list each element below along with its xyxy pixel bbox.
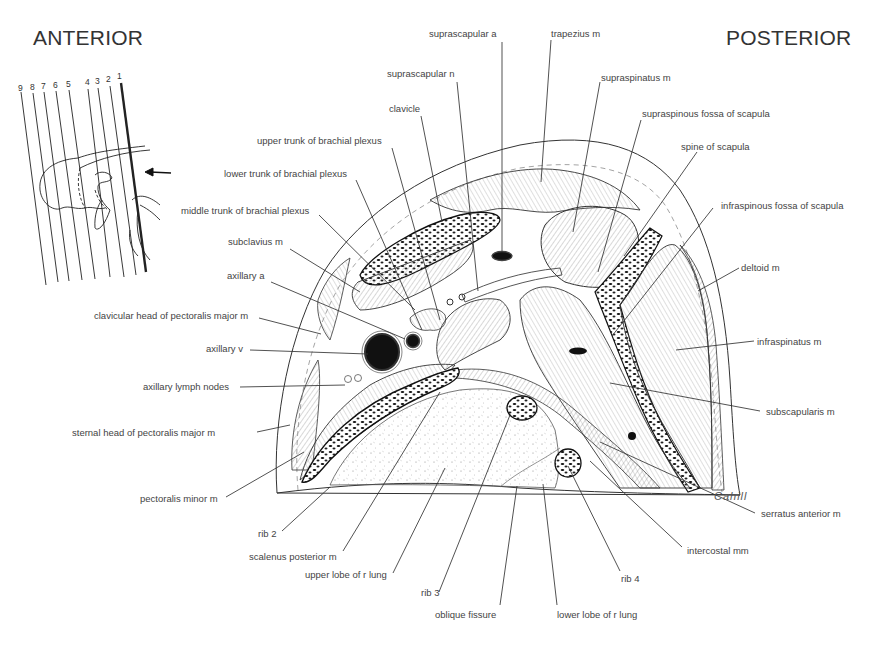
label-supraspinatus-m: supraspinatus m: [601, 72, 671, 83]
label-deltoid-m: deltoid m: [741, 262, 780, 273]
label-supraspinous-fossa: supraspinous fossa of scapula: [642, 108, 770, 119]
label-infraspinatus-m: infraspinatus m: [757, 336, 821, 347]
section-number-3: 3: [95, 76, 100, 86]
label-axillary-lymph-nodes: axillary lymph nodes: [143, 381, 229, 392]
orientation-diagram: [21, 83, 160, 285]
label-axillary-a: axillary a: [227, 270, 265, 281]
label-oblique-fissure: oblique fissure: [435, 609, 496, 620]
section-number-1: 1: [117, 71, 122, 81]
section-number-5: 5: [66, 79, 71, 89]
label-scalenus-posterior-m: scalenus posterior m: [249, 551, 337, 562]
label-upper-lobe-r-lung: upper lobe of r lung: [305, 569, 387, 580]
label-middle-trunk: middle trunk of brachial plexus: [181, 205, 309, 216]
label-spine-of-scapula: spine of scapula: [681, 141, 750, 152]
section-number-4: 4: [85, 77, 90, 87]
label-sternal-head-pectoralis-major: sternal head of pectoralis major m: [72, 427, 215, 438]
section-number-2: 2: [106, 74, 111, 84]
label-rib-3: rib 3: [421, 587, 439, 598]
arrow-icon: [145, 168, 171, 176]
label-intercostal-mm: intercostal mm: [687, 545, 749, 556]
label-subscapularis-m: subscapularis m: [766, 406, 835, 417]
label-infraspinous-fossa: infraspinous fossa of scapula: [721, 200, 844, 211]
label-subclavius-m: subclavius m: [228, 236, 283, 247]
section-number-8: 8: [30, 82, 35, 92]
label-upper-trunk: upper trunk of brachial plexus: [257, 135, 382, 146]
label-suprascapular-a: suprascapular a: [429, 28, 497, 39]
label-pectoralis-minor-m: pectoralis minor m: [140, 493, 218, 504]
label-suprascapular-n: suprascapular n: [387, 68, 455, 79]
label-axillary-v: axillary v: [206, 343, 243, 354]
label-rib-2: rib 2: [258, 528, 276, 539]
artist-signature: Cahill: [714, 490, 748, 502]
label-lower-lobe-r-lung: lower lobe of r lung: [557, 609, 637, 620]
label-serratus-anterior-m: serratus anterior m: [761, 508, 841, 519]
section-number-7: 7: [41, 81, 46, 91]
label-trapezius-m: trapezius m: [551, 28, 600, 39]
section-number-6: 6: [53, 80, 58, 90]
label-rib-4: rib 4: [621, 573, 639, 584]
label-clavicular-head-pectoralis-major: clavicular head of pectoralis major m: [94, 310, 248, 321]
label-lower-trunk: lower trunk of brachial plexus: [224, 168, 347, 179]
label-clavicle: clavicle: [389, 103, 420, 114]
section-number-9: 9: [18, 83, 23, 93]
